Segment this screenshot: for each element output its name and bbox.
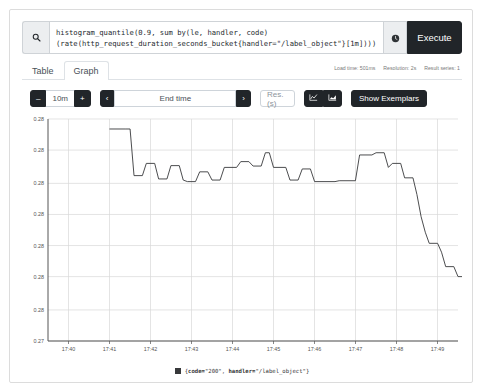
- svg-text:0.27: 0.27: [34, 338, 45, 344]
- resolution-group: Res. (s): [260, 90, 295, 107]
- chart-canvas[interactable]: 0.280.280.280.280.280.280.280.2717:4017:…: [22, 115, 462, 363]
- legend-series-label[interactable]: {code="200", handler="/label_object"}: [185, 368, 310, 374]
- svg-text:17:41: 17:41: [103, 346, 117, 352]
- query-panel: histogram_quantile(0.9, sum by(le, handl…: [9, 9, 473, 383]
- line-chart-icon: [309, 93, 318, 104]
- show-exemplars-group: Show Exemplars: [351, 90, 427, 107]
- prometheus-expression-browser: histogram_quantile(0.9, sum by(le, handl…: [0, 0, 482, 392]
- svg-text:0.28: 0.28: [34, 147, 45, 153]
- resolution-input[interactable]: Res. (s): [260, 90, 295, 107]
- svg-text:17:42: 17:42: [144, 346, 158, 352]
- tab-table[interactable]: Table: [22, 61, 64, 80]
- legend-value-code: "200",: [205, 368, 229, 374]
- legend-color-swatch[interactable]: [175, 368, 181, 374]
- stacked-chart-icon: [328, 93, 337, 104]
- svg-text:0.28: 0.28: [34, 307, 45, 313]
- svg-text:0.28: 0.28: [34, 243, 45, 249]
- legend-key-handler: handler=: [228, 368, 255, 374]
- chart-type-group: [304, 90, 342, 107]
- svg-text:0.28: 0.28: [34, 274, 45, 280]
- svg-text:17:46: 17:46: [308, 346, 322, 352]
- previous-time-button[interactable]: ‹: [100, 90, 115, 107]
- search-icon: [32, 33, 41, 42]
- svg-text:0.28: 0.28: [34, 116, 45, 122]
- legend-value-handler: "/label_object"}: [255, 368, 309, 374]
- end-time-group: ‹ End time ›: [100, 90, 251, 107]
- query-status-line: Load time: 501ms Resolution: 2s Result s…: [334, 64, 460, 72]
- end-time-input[interactable]: End time: [114, 90, 236, 107]
- resolution-text: Resolution: 2s: [383, 64, 416, 72]
- range-value-input[interactable]: 10m: [46, 90, 74, 107]
- stacked-chart-button[interactable]: [323, 90, 342, 107]
- show-exemplars-button[interactable]: Show Exemplars: [351, 90, 427, 107]
- svg-text:17:47: 17:47: [349, 346, 363, 352]
- svg-text:17:40: 17:40: [62, 346, 76, 352]
- execute-button[interactable]: Execute: [407, 21, 462, 54]
- next-time-button[interactable]: ›: [236, 90, 251, 107]
- svg-text:0.28: 0.28: [34, 180, 45, 186]
- svg-text:17:49: 17:49: [431, 346, 445, 352]
- history-clock-icon: [391, 29, 400, 47]
- increase-range-button[interactable]: +: [74, 90, 91, 107]
- search-icon-button[interactable]: [22, 21, 49, 54]
- load-time-text: Load time: 501ms: [334, 64, 375, 72]
- query-row: histogram_quantile(0.9, sum by(le, handl…: [22, 21, 462, 54]
- legend-key-code: code=: [188, 368, 205, 374]
- svg-text:0.28: 0.28: [34, 211, 45, 217]
- svg-text:17:43: 17:43: [185, 346, 199, 352]
- range-input-group: – 10m +: [30, 90, 91, 107]
- query-history-button[interactable]: [384, 21, 407, 54]
- query-expression-input[interactable]: histogram_quantile(0.9, sum by(le, handl…: [49, 21, 384, 54]
- tab-graph[interactable]: Graph: [64, 61, 109, 80]
- svg-text:17:48: 17:48: [390, 346, 404, 352]
- svg-text:17:45: 17:45: [267, 346, 281, 352]
- graph-controls: – 10m + ‹ End time › Res. (s): [30, 90, 427, 107]
- decrease-range-button[interactable]: –: [30, 90, 46, 107]
- result-series-text: Result series: 1: [424, 64, 460, 72]
- svg-text:17:44: 17:44: [226, 346, 240, 352]
- chart-legend: {code="200", handler="/label_object"}: [10, 368, 474, 374]
- graph-chart[interactable]: 0.280.280.280.280.280.280.280.2717:4017:…: [22, 115, 462, 363]
- line-chart-button[interactable]: [304, 90, 323, 107]
